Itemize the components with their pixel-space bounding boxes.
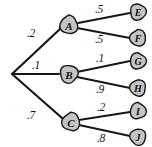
tree-edge-a-e — [78, 13, 130, 23]
node-label-b: B — [64, 69, 72, 81]
node-label-j: J — [135, 132, 142, 143]
nodes-group: ABCEFGHIJ — [60, 4, 147, 145]
node-label-g: G — [134, 56, 142, 67]
tree-canvas: ABCEFGHIJ .2.1.7.5.5.1.9.2.8 — [0, 0, 152, 147]
tree-node-e: E — [131, 4, 147, 20]
tree-node-g: G — [131, 53, 147, 69]
tree-node-h: H — [130, 80, 146, 97]
edge-probability-b-g: .1 — [96, 52, 104, 64]
node-label-c: C — [67, 117, 75, 129]
node-label-a: A — [64, 20, 72, 32]
edge-probability-root-a: .2 — [27, 27, 36, 39]
edge-probability-root-c: .7 — [27, 109, 37, 121]
node-label-f: F — [134, 33, 142, 44]
tree-edge-c-i — [79, 112, 130, 120]
edge-probability-a-e: .5 — [95, 3, 104, 15]
edge-probability-c-i: .2 — [97, 101, 106, 113]
node-label-e: E — [134, 7, 142, 18]
edge-probability-a-f: .5 — [95, 33, 104, 45]
node-label-h: H — [133, 83, 143, 94]
tree-node-a: A — [60, 15, 78, 34]
tree-node-b: B — [60, 66, 78, 84]
tree-edge-a-f — [77, 28, 130, 38]
tree-node-f: F — [130, 29, 146, 46]
tree-edge-root-c — [12, 74, 62, 118]
tree-node-i: I — [130, 102, 146, 118]
edge-probability-c-j: .8 — [97, 132, 106, 144]
tree-node-c: C — [62, 112, 80, 131]
edge-probability-root-b: .1 — [32, 59, 40, 71]
edge-probability-b-h: .9 — [96, 83, 105, 95]
tree-node-j: J — [130, 129, 146, 145]
probability-tree-diagram: ABCEFGHIJ .2.1.7.5.5.1.9.2.8 — [0, 0, 152, 147]
